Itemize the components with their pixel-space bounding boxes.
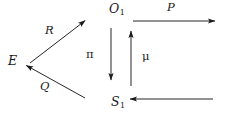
node-S1-text: S: [111, 94, 120, 109]
node-O1-text: O: [109, 1, 119, 16]
node-label-S1: S1: [111, 96, 125, 110]
edge-label-P: P: [167, 2, 175, 14]
node-label-E: E: [8, 55, 17, 68]
diagram-canvas: E O1 S1 R Q P π μ: [0, 0, 230, 121]
node-E-text: E: [8, 53, 17, 68]
arrow-R: [30, 21, 85, 63]
node-O1-subscript: 1: [120, 8, 125, 17]
edge-label-pi: π: [86, 49, 94, 61]
arrow-Q: [26, 65, 85, 98]
edge-label-R: R: [45, 25, 54, 37]
node-label-O1: O1: [109, 3, 125, 17]
edge-label-mu: μ: [142, 51, 149, 63]
edge-label-Q: Q: [40, 81, 49, 93]
node-S1-subscript: 1: [120, 101, 125, 110]
